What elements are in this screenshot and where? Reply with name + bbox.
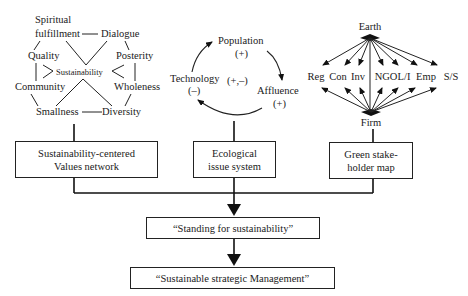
sustainability-framework-diagram: Spiritual fulfillment Dialogue Quality P…: [0, 0, 468, 296]
stake-box-line1: Green stake-: [344, 148, 397, 161]
stakeholder-emp: Emp: [416, 71, 436, 83]
node-smallness: Smallness: [36, 106, 79, 118]
stake-box-line2: holder map: [347, 161, 395, 174]
management-label: “Sustainable strategic Management”: [156, 272, 309, 285]
standing-label: “Standing for sustainability”: [173, 222, 293, 235]
values-network-box: Sustainability-centered Values network: [15, 141, 158, 178]
standing-for-sustainability-box: “Standing for sustainability”: [146, 217, 320, 239]
stakeholder-map-box: Green stake- holder map: [329, 142, 413, 179]
node-fulfillment: fulfillment: [35, 28, 80, 40]
eco-box-line1: Ecological: [212, 147, 257, 160]
stakeholder-reg: Reg: [308, 71, 325, 83]
stakeholder-inv: Inv: [351, 71, 365, 83]
stakeholder-earth: Earth: [359, 21, 382, 33]
eco-technology: Technology: [170, 73, 219, 85]
node-quality: Quality: [28, 50, 60, 62]
node-dialogue: Dialogue: [101, 28, 140, 40]
node-diversity: Diversity: [102, 106, 141, 118]
eco-affluence: Affluence: [257, 85, 299, 97]
stakeholder-con: Con: [329, 71, 347, 83]
stakeholder-firm: Firm: [361, 117, 381, 129]
eco-technology-sign: (–): [188, 85, 200, 97]
stakeholder-ss: S/S: [444, 71, 459, 83]
eco-center-sign: (+,–): [227, 75, 248, 87]
node-spiritual: Spiritual: [35, 14, 71, 26]
eco-box-line2: issue system: [208, 160, 261, 173]
ecological-issue-box: Ecological issue system: [193, 141, 276, 178]
eco-population: Population: [218, 35, 264, 47]
stakeholder-li: L/I: [398, 71, 411, 83]
stakeholder-ngo: NGO: [375, 71, 398, 83]
values-box-line1: Sustainability-centered: [38, 147, 135, 160]
node-wholeness: Wholeness: [114, 81, 160, 93]
sustainable-management-box: “Sustainable strategic Management”: [130, 267, 335, 289]
values-box-line2: Values network: [54, 160, 119, 173]
eco-population-sign: (+): [235, 48, 248, 60]
node-community: Community: [15, 81, 65, 93]
node-posterity: Posterity: [116, 50, 153, 62]
eco-affluence-sign: (+): [273, 98, 286, 110]
node-sustainability-center: Sustainability: [56, 66, 103, 78]
